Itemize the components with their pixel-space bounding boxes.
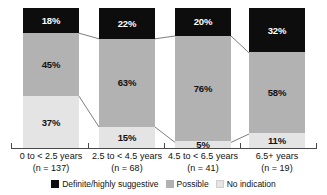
bar-segment-value-label: 32%: [268, 25, 287, 36]
bar-segment-value-label: 15%: [118, 132, 137, 143]
bar-segment-value-label: 18%: [42, 15, 61, 26]
legend-item[interactable]: Definite/highly suggestive: [51, 179, 158, 189]
bar-segment-value-label: 58%: [268, 87, 287, 98]
legend-swatch-icon: [51, 180, 59, 188]
bar-segment-no-indication[interactable]: 5%: [175, 141, 231, 148]
connector-line: [155, 127, 175, 142]
connector-line: [231, 36, 249, 53]
x-axis-tick: [11, 143, 12, 149]
category-name: 0 to < 2.5 years: [20, 151, 82, 161]
category-name: 4.5 to < 6.5 years: [168, 151, 238, 161]
legend-label: No indication: [227, 179, 276, 189]
connector-line: [155, 36, 175, 39]
x-axis-tick: [316, 143, 317, 149]
legend-item[interactable]: No indication: [216, 179, 276, 189]
bar-segment-definite-highly-suggestive[interactable]: 18%: [23, 8, 79, 33]
legend-item[interactable]: Possible: [166, 179, 209, 189]
bar-segment-value-label: 63%: [118, 77, 137, 88]
chart-legend: Definite/highly suggestivePossibleNo ind…: [0, 179, 327, 189]
bar-column[interactable]: 22%63%15%: [99, 8, 155, 148]
x-axis-category-label: 4.5 to < 6.5 years(n = 41): [163, 151, 243, 174]
legend-label: Possible: [177, 179, 209, 189]
x-axis-category-label: 0 to < 2.5 years(n = 137): [11, 151, 91, 174]
bar-segment-possible[interactable]: 63%: [99, 39, 155, 127]
plot-area: 18%45%37%22%63%15%20%76%5%32%58%11%: [0, 0, 327, 149]
bar-segment-definite-highly-suggestive[interactable]: 32%: [249, 8, 305, 52]
connector-line: [79, 96, 99, 127]
legend-swatch-icon: [216, 180, 224, 188]
x-axis-tick: [240, 143, 241, 149]
x-axis-category-labels: 0 to < 2.5 years(n = 137)2.5 to < 4.5 ye…: [0, 151, 327, 177]
bar-column[interactable]: 18%45%37%: [23, 8, 79, 148]
bar-segment-value-label: 22%: [118, 18, 137, 29]
bar-segment-value-label: 37%: [42, 117, 61, 128]
x-axis-category-label: 6.5+ years(n = 19): [237, 151, 317, 174]
bar-segment-value-label: 20%: [194, 16, 213, 27]
category-sample-size: (n = 41): [163, 163, 243, 175]
x-axis-tick: [88, 143, 89, 149]
connector-line: [79, 33, 99, 39]
x-axis-category-label: 2.5 to < 4.5 years(n = 68): [87, 151, 167, 174]
bar-segment-no-indication[interactable]: 11%: [249, 133, 305, 148]
stacked-bar-chart: 18%45%37%22%63%15%20%76%5%32%58%11% 0 to…: [0, 0, 327, 195]
bar-segment-value-label: 76%: [194, 83, 213, 94]
bar-segment-no-indication[interactable]: 37%: [23, 96, 79, 148]
bar-column[interactable]: 32%58%11%: [249, 8, 305, 148]
bar-segment-possible[interactable]: 58%: [249, 52, 305, 132]
category-name: 6.5+ years: [256, 151, 298, 161]
bar-segment-value-label: 45%: [42, 59, 61, 70]
bar-column[interactable]: 20%76%5%: [175, 8, 231, 148]
category-sample-size: (n = 137): [11, 163, 91, 175]
category-sample-size: (n = 68): [87, 163, 167, 175]
legend-label: Definite/highly suggestive: [62, 179, 158, 189]
category-sample-size: (n = 19): [237, 163, 317, 175]
bar-segment-definite-highly-suggestive[interactable]: 20%: [175, 8, 231, 36]
bar-segment-no-indication[interactable]: 15%: [99, 127, 155, 148]
legend-swatch-icon: [166, 180, 174, 188]
bar-segment-possible[interactable]: 45%: [23, 33, 79, 96]
category-name: 2.5 to < 4.5 years: [92, 151, 162, 161]
bar-segment-possible[interactable]: 76%: [175, 36, 231, 141]
x-axis-tick: [164, 143, 165, 149]
bar-segment-value-label: 5%: [196, 141, 210, 148]
bar-segment-value-label: 11%: [268, 135, 286, 146]
connector-line: [231, 134, 249, 142]
bar-segment-definite-highly-suggestive[interactable]: 22%: [99, 8, 155, 39]
